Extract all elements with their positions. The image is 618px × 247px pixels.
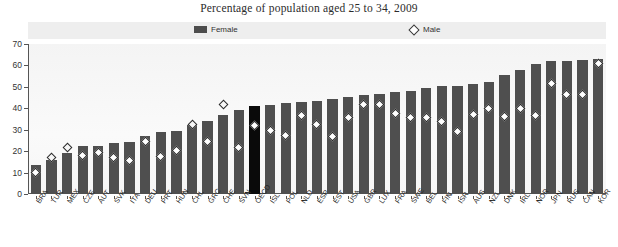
bar-female: [327, 99, 337, 194]
legend-label-male: Male: [423, 25, 440, 34]
y-tick-label: 60: [0, 60, 22, 70]
bar-female: [359, 95, 369, 194]
y-tick-label: 10: [0, 168, 22, 178]
bar-group: [202, 44, 212, 194]
bar-group: [452, 44, 462, 194]
chart-figure: Percentage of population aged 25 to 34, …: [0, 0, 618, 247]
bar-group: [93, 44, 103, 194]
bar-group: [140, 44, 150, 194]
y-tick-label: 40: [0, 103, 22, 113]
y-tick-label: 0: [0, 189, 22, 199]
bar-group: [218, 44, 228, 194]
bar-female: [234, 110, 244, 194]
chart-legend: Female Male: [28, 22, 606, 39]
bar-group: [312, 44, 322, 194]
bar-group: [374, 44, 384, 194]
female-bar-swatch-icon: [194, 26, 207, 33]
bar-group: [78, 44, 88, 194]
marker-male: [62, 143, 72, 153]
bar-female: [62, 153, 72, 194]
bar-female: [531, 64, 541, 194]
bar-female: [437, 86, 447, 194]
bar-group: [577, 44, 587, 194]
bar-female: [468, 84, 478, 194]
bar-group: [281, 44, 291, 194]
bar-group: [343, 44, 353, 194]
bar-group: [515, 44, 525, 194]
y-tick-label: 20: [0, 146, 22, 156]
bar-group: [484, 44, 494, 194]
bar-group: [31, 44, 41, 194]
bar-female: [156, 132, 166, 194]
bar-female: [46, 160, 56, 194]
bar-female: [452, 86, 462, 194]
bar-group: [406, 44, 416, 194]
bar-group: [296, 44, 306, 194]
bar-female: [484, 82, 494, 195]
bar-group: [437, 44, 447, 194]
bar-group: [359, 44, 369, 194]
bar-group: [62, 44, 72, 194]
bar-group: [249, 44, 259, 194]
y-tick-label: 70: [0, 39, 22, 49]
bar-group: [390, 44, 400, 194]
x-axis-labels: BRATURMEXCZEAUTSVKITADEUPRTHUNCHLGRCCHES…: [28, 196, 606, 244]
bar-group: [171, 44, 181, 194]
bar-group: [46, 44, 56, 194]
bar-group: [124, 44, 134, 194]
bar-group: [327, 44, 337, 194]
male-diamond-swatch-icon: [408, 24, 419, 35]
chart-title: Percentage of population aged 25 to 34, …: [0, 2, 618, 14]
bar-group: [562, 44, 572, 194]
marker-male: [218, 99, 228, 109]
bar-female: [312, 101, 322, 194]
legend-item-female: Female: [194, 25, 238, 34]
y-tick-label: 30: [0, 125, 22, 135]
y-tick-mark: [24, 194, 28, 195]
bar-group: [499, 44, 509, 194]
legend-item-male: Male: [410, 25, 440, 34]
bar-female: [577, 60, 587, 194]
bar-group: [109, 44, 119, 194]
bar-female: [124, 142, 134, 195]
bar-series-group: [28, 44, 606, 194]
bar-female: [499, 75, 509, 194]
bar-group: [593, 44, 603, 194]
bar-female: [281, 103, 291, 194]
bar-female: [249, 106, 259, 194]
y-tick-label: 50: [0, 82, 22, 92]
bar-female: [109, 143, 119, 194]
bar-female: [593, 59, 603, 194]
legend-label-female: Female: [211, 25, 238, 34]
bar-female: [218, 115, 228, 194]
bar-female: [265, 105, 275, 194]
bar-group: [468, 44, 478, 194]
bar-group: [265, 44, 275, 194]
bar-group: [421, 44, 431, 194]
bar-female: [171, 131, 181, 194]
bar-group: [156, 44, 166, 194]
bar-female: [343, 97, 353, 195]
bar-group: [531, 44, 541, 194]
bar-female: [187, 125, 197, 194]
bar-female: [406, 91, 416, 194]
bar-female: [202, 121, 212, 194]
bar-group: [187, 44, 197, 194]
bar-female: [515, 70, 525, 194]
bar-female: [562, 61, 572, 194]
bar-group: [546, 44, 556, 194]
bar-group: [234, 44, 244, 194]
bar-female: [421, 88, 431, 194]
